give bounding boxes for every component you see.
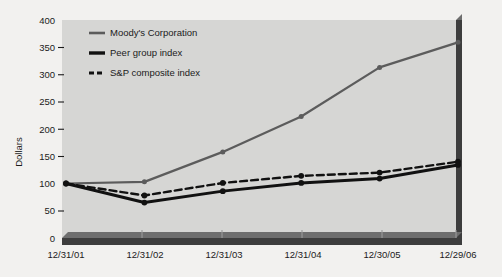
data-point [455,159,461,165]
y-axis-title: Dollars [13,137,24,167]
y-axis: 400 350 300 250 200 150 100 50 0 [39,15,64,244]
y-tick-label-400: 400 [39,15,55,26]
data-point [456,40,461,45]
x-tick-label-0: 12/31/01 [48,249,85,260]
data-point [298,180,304,186]
legend-label-moodys: Moody's Corporation [110,27,197,38]
data-point [220,180,226,186]
y-tick-label-100: 100 [39,178,55,189]
y-tick-label-300: 300 [39,69,55,80]
x-tick-label-1: 12/31/02 [127,249,164,260]
legend-label-sp-composite: S&P composite index [110,67,200,78]
x-tick-label-5: 12/29/06 [440,249,477,260]
x-tick-label-4: 12/30/05 [364,249,401,260]
data-point [142,193,148,199]
y-tick-label-0: 0 [50,233,55,244]
x-tick-label-2: 12/31/03 [206,249,243,260]
data-point [220,149,225,154]
data-point [298,173,304,179]
chart-canvas: 400 350 300 250 200 150 100 50 0 Dollars [0,0,502,277]
data-point [220,188,226,194]
data-point [299,114,304,119]
x-tick-label-3: 12/31/04 [285,249,322,260]
stock-performance-chart: 400 350 300 250 200 150 100 50 0 Dollars [0,0,502,277]
y-tick-label-200: 200 [39,124,55,135]
x-axis: 12/31/01 12/31/02 12/31/03 12/31/04 12/3… [48,249,477,260]
y-tick-label-50: 50 [44,205,55,216]
y-tick-label-150: 150 [39,151,55,162]
data-point [63,181,69,187]
data-point [377,170,383,176]
data-point [142,179,147,184]
data-point [377,176,383,182]
data-point [377,65,382,70]
y-tick-label-350: 350 [39,42,55,53]
x-axis-bar [62,232,462,245]
legend-label-peer-group: Peer group index [110,47,183,58]
y-tick-label-250: 250 [39,96,55,107]
data-point [142,200,148,206]
right-axis-bar [456,14,462,238]
